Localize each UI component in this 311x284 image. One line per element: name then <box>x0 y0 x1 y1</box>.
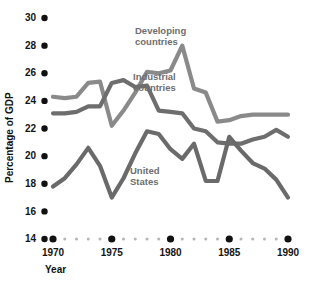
x-tick-label: 1980 <box>159 247 182 258</box>
y-tick-dot <box>41 181 47 187</box>
y-tick-dot <box>41 153 47 159</box>
x-tick-label: 1990 <box>277 247 300 258</box>
y-tick-dot <box>41 125 47 131</box>
x-tick-dot-minor <box>193 238 196 241</box>
y-tick-label: 26 <box>25 67 37 78</box>
y-tick-dot <box>41 98 47 104</box>
x-tick-dot-major <box>49 235 56 242</box>
x-tick-dot-major <box>108 235 115 242</box>
x-tick-dot-minor <box>134 238 137 241</box>
x-tick-dot-minor <box>263 238 266 241</box>
x-tick-dot-minor <box>87 238 90 241</box>
y-tick-label: 28 <box>25 40 37 51</box>
y-tick-label: 14 <box>25 233 37 244</box>
series-label-2: United <box>130 165 160 176</box>
y-axis-title: Percentage of GDP <box>4 92 15 183</box>
x-tick-dot-major <box>226 235 233 242</box>
series-label-0: Developing <box>135 25 186 36</box>
x-tick-label: 1985 <box>218 247 241 258</box>
series-label-2-line2: States <box>130 176 159 187</box>
x-tick-dot-minor <box>63 238 66 241</box>
series-label-0-line2: countries <box>135 36 178 47</box>
x-tick-dot-minor <box>181 238 184 241</box>
x-tick-dot-major <box>284 235 291 242</box>
y-tick-dot <box>41 70 47 76</box>
x-tick-dot-major <box>167 235 174 242</box>
y-tick-label: 30 <box>25 12 37 23</box>
x-axis: 19701975198019851990 <box>42 235 300 258</box>
x-tick-dot-minor <box>240 238 243 241</box>
y-tick-label: 20 <box>25 150 37 161</box>
series-label-1-line2: countries <box>133 82 176 93</box>
series-label-1: Industrial <box>133 71 176 82</box>
y-tick-label: 24 <box>25 95 37 106</box>
x-tick-label: 1975 <box>101 247 124 258</box>
x-tick-dot-minor <box>99 238 102 241</box>
y-tick-dot <box>41 42 47 48</box>
y-axis: 141618202224262830 <box>25 12 48 244</box>
y-tick-label: 16 <box>25 206 37 217</box>
x-tick-dot-minor <box>122 238 125 241</box>
y-tick-label: 22 <box>25 123 37 134</box>
x-axis-title: Year <box>45 264 66 275</box>
x-tick-dot-minor <box>204 238 207 241</box>
y-tick-label: 18 <box>25 178 37 189</box>
x-tick-dot-minor <box>216 238 219 241</box>
x-tick-dot-minor <box>157 238 160 241</box>
chart-container: 141618202224262830 19701975198019851990 … <box>0 0 311 284</box>
x-tick-dot-minor <box>146 238 149 241</box>
x-tick-dot-minor <box>275 238 278 241</box>
x-tick-label: 1970 <box>42 247 65 258</box>
y-tick-dot <box>41 208 47 214</box>
x-tick-dot-minor <box>251 238 254 241</box>
y-tick-dot <box>41 15 47 21</box>
y-tick-dot <box>41 236 47 242</box>
x-tick-dot-minor <box>75 238 78 241</box>
series-lines <box>53 46 288 198</box>
line-chart: 141618202224262830 19701975198019851990 … <box>0 0 311 284</box>
